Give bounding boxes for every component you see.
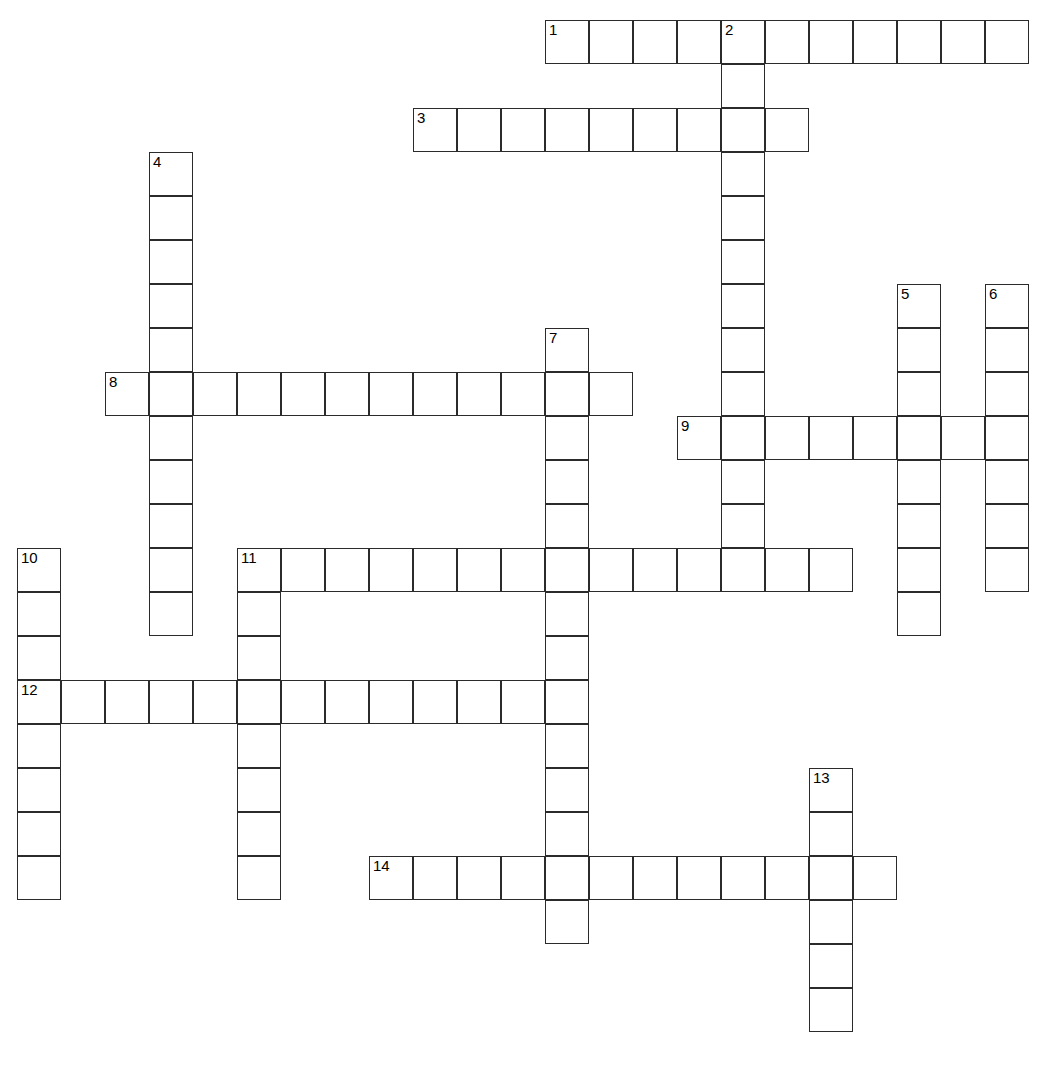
crossword-cell[interactable] — [149, 592, 193, 636]
crossword-cell[interactable] — [545, 416, 589, 460]
crossword-cell[interactable] — [633, 548, 677, 592]
crossword-cell[interactable] — [457, 548, 501, 592]
crossword-cell[interactable] — [721, 372, 765, 416]
crossword-cell[interactable] — [545, 856, 589, 900]
crossword-cell-numbered[interactable]: 8 — [105, 372, 149, 416]
crossword-cell[interactable] — [413, 372, 457, 416]
crossword-cell[interactable] — [853, 20, 897, 64]
crossword-cell[interactable] — [545, 636, 589, 680]
crossword-cell[interactable] — [721, 108, 765, 152]
crossword-cell[interactable] — [897, 592, 941, 636]
crossword-cell[interactable] — [545, 724, 589, 768]
crossword-cell[interactable] — [545, 504, 589, 548]
crossword-cell[interactable] — [149, 284, 193, 328]
crossword-cell[interactable] — [677, 108, 721, 152]
crossword-cell[interactable] — [589, 372, 633, 416]
crossword-cell[interactable] — [633, 108, 677, 152]
crossword-cell[interactable] — [809, 812, 853, 856]
crossword-cell[interactable] — [237, 636, 281, 680]
crossword-cell[interactable] — [501, 108, 545, 152]
crossword-cell[interactable] — [149, 680, 193, 724]
crossword-cell[interactable] — [721, 548, 765, 592]
crossword-cell[interactable] — [985, 460, 1029, 504]
crossword-cell[interactable] — [281, 680, 325, 724]
crossword-cell[interactable] — [501, 548, 545, 592]
crossword-cell[interactable] — [633, 20, 677, 64]
crossword-cell[interactable] — [809, 416, 853, 460]
crossword-cell[interactable] — [853, 856, 897, 900]
crossword-cell-numbered[interactable]: 12 — [17, 680, 61, 724]
crossword-cell[interactable] — [589, 856, 633, 900]
crossword-cell[interactable] — [369, 372, 413, 416]
crossword-cell-numbered[interactable]: 14 — [369, 856, 413, 900]
crossword-cell[interactable] — [237, 680, 281, 724]
crossword-cell[interactable] — [897, 416, 941, 460]
crossword-cell[interactable] — [941, 20, 985, 64]
crossword-cell[interactable] — [765, 856, 809, 900]
crossword-cell[interactable] — [853, 416, 897, 460]
crossword-cell[interactable] — [985, 504, 1029, 548]
crossword-cell[interactable] — [589, 20, 633, 64]
crossword-cell[interactable] — [765, 20, 809, 64]
crossword-cell[interactable] — [941, 416, 985, 460]
crossword-cell[interactable] — [193, 680, 237, 724]
crossword-cell[interactable] — [985, 372, 1029, 416]
crossword-cell[interactable] — [149, 196, 193, 240]
crossword-cell-numbered[interactable]: 4 — [149, 152, 193, 196]
crossword-cell[interactable] — [677, 20, 721, 64]
crossword-cell[interactable] — [721, 152, 765, 196]
crossword-cell[interactable] — [193, 372, 237, 416]
crossword-cell[interactable] — [897, 460, 941, 504]
crossword-cell[interactable] — [413, 680, 457, 724]
crossword-cell[interactable] — [457, 680, 501, 724]
crossword-cell[interactable] — [633, 856, 677, 900]
crossword-cell[interactable] — [721, 196, 765, 240]
crossword-cell[interactable] — [237, 812, 281, 856]
crossword-cell[interactable] — [985, 328, 1029, 372]
crossword-cell[interactable] — [897, 504, 941, 548]
crossword-cell[interactable] — [149, 548, 193, 592]
crossword-cell-numbered[interactable]: 13 — [809, 768, 853, 812]
crossword-cell[interactable] — [237, 856, 281, 900]
crossword-cell-numbered[interactable]: 2 — [721, 20, 765, 64]
crossword-cell[interactable] — [17, 768, 61, 812]
crossword-cell[interactable] — [897, 548, 941, 592]
crossword-cell[interactable] — [325, 372, 369, 416]
crossword-cell[interactable] — [369, 548, 413, 592]
crossword-cell[interactable] — [809, 856, 853, 900]
crossword-cell[interactable] — [721, 64, 765, 108]
crossword-cell[interactable] — [545, 548, 589, 592]
crossword-cell[interactable] — [281, 548, 325, 592]
crossword-cell[interactable] — [17, 812, 61, 856]
crossword-cell-numbered[interactable]: 9 — [677, 416, 721, 460]
crossword-cell[interactable] — [501, 372, 545, 416]
crossword-cell[interactable] — [985, 548, 1029, 592]
crossword-cell-numbered[interactable]: 6 — [985, 284, 1029, 328]
crossword-cell[interactable] — [413, 856, 457, 900]
crossword-cell[interactable] — [369, 680, 413, 724]
crossword-cell[interactable] — [61, 680, 105, 724]
crossword-cell[interactable] — [809, 20, 853, 64]
crossword-cell[interactable] — [765, 548, 809, 592]
crossword-cell[interactable] — [677, 548, 721, 592]
crossword-cell[interactable] — [589, 548, 633, 592]
crossword-cell[interactable] — [457, 372, 501, 416]
crossword-cell[interactable] — [721, 328, 765, 372]
crossword-cell[interactable] — [765, 108, 809, 152]
crossword-cell[interactable] — [149, 372, 193, 416]
crossword-cell[interactable] — [237, 372, 281, 416]
crossword-cell[interactable] — [809, 988, 853, 1032]
crossword-cell[interactable] — [897, 20, 941, 64]
crossword-cell[interactable] — [17, 592, 61, 636]
crossword-cell[interactable] — [721, 240, 765, 284]
crossword-cell-numbered[interactable]: 7 — [545, 328, 589, 372]
crossword-cell[interactable] — [545, 108, 589, 152]
crossword-cell[interactable] — [237, 592, 281, 636]
crossword-cell[interactable] — [545, 768, 589, 812]
crossword-cell[interactable] — [149, 504, 193, 548]
crossword-cell[interactable] — [17, 724, 61, 768]
crossword-cell[interactable] — [501, 856, 545, 900]
crossword-cell[interactable] — [897, 372, 941, 416]
crossword-cell[interactable] — [105, 680, 149, 724]
crossword-cell[interactable] — [897, 328, 941, 372]
